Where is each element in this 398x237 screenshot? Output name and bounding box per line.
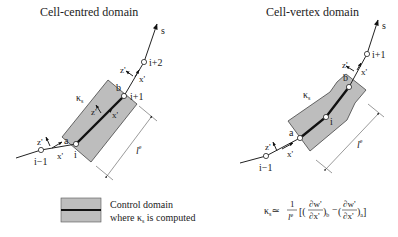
cell-centred-panel: Cell-centred domain s i−1 i i+1 i+2 a b … xyxy=(16,5,165,180)
dimension-extension-bottom xyxy=(96,166,113,180)
cell-vertex-title: Cell-vertex domain xyxy=(266,5,359,19)
label-i-minus-1: i−1 xyxy=(34,156,47,167)
node-i-minus-1 xyxy=(38,147,43,152)
z-prime-arrow-a xyxy=(273,142,277,151)
point-a-label: a xyxy=(289,127,294,138)
x-prime-label-b: x' xyxy=(139,74,146,84)
length-label: le xyxy=(357,138,363,150)
node-i xyxy=(73,141,78,146)
s-axis-label: s xyxy=(382,20,386,31)
s-axis-label: s xyxy=(161,25,165,36)
z-prime-label-a: z' xyxy=(265,142,271,152)
label-i-plus-1: i+1 xyxy=(130,91,143,102)
node-b xyxy=(346,84,351,89)
z-prime-label-b: z' xyxy=(120,65,126,75)
node-i-plus-1 xyxy=(364,51,369,56)
derivative-b-close: )b xyxy=(323,206,329,218)
x-prime-label-b: x' xyxy=(361,67,368,77)
z-prime-arrow-a xyxy=(46,137,50,146)
legend: Control domain where κs is computed xyxy=(61,198,195,224)
label-i-plus-1: i+1 xyxy=(372,49,385,60)
node-i-plus-1 xyxy=(121,93,126,98)
derivative-a-close: )a] xyxy=(357,206,366,218)
derivative-b-den: ∂x' xyxy=(309,211,320,221)
fraction-denominator: le xyxy=(288,212,294,222)
derivative-a-open: ( xyxy=(338,206,342,218)
dimension-extension-top xyxy=(139,106,157,121)
x-prime-label-a: x' xyxy=(287,149,294,159)
z-prime-label-a: z' xyxy=(37,137,43,147)
derivative-a-num: ∂w' xyxy=(343,199,356,209)
legend-line-2: where κs is computed xyxy=(110,212,195,224)
node-i-plus-2 xyxy=(141,59,146,64)
curvature-formula: κs≃ 1 le [( ∂w' ∂x' )b − ( ∂w' ∂x' )a] xyxy=(264,199,366,222)
formula-lhs: κs≃ xyxy=(264,205,280,217)
label-i: i xyxy=(74,149,77,160)
node-i xyxy=(323,114,328,119)
label-i-plus-2: i+2 xyxy=(149,57,162,68)
z-prime-label-mid: z' xyxy=(91,107,97,117)
dimension-extension-bottom xyxy=(316,160,332,173)
node-i-minus-1 xyxy=(263,153,268,158)
label-i: i xyxy=(330,116,333,127)
node-a xyxy=(297,135,302,140)
kappa-s-label: κs xyxy=(76,92,84,104)
point-a-label: a xyxy=(64,135,69,146)
fraction-numerator: 1 xyxy=(290,199,295,209)
z-prime-arrow-b xyxy=(126,71,133,76)
open-bracket: [( xyxy=(299,206,306,218)
legend-line-1: Control domain xyxy=(110,199,173,210)
diagram-canvas: Cell-centred domain s i−1 i i+1 i+2 a b … xyxy=(0,0,398,237)
point-b-label: b xyxy=(116,82,121,93)
length-label: le xyxy=(136,144,142,156)
kappa-s-label: κs xyxy=(303,89,311,101)
x-prime-label-a: x' xyxy=(57,151,64,161)
cell-centred-title: Cell-centred domain xyxy=(40,5,138,19)
z-prime-label-b: z' xyxy=(342,60,348,70)
derivative-b-num: ∂w' xyxy=(309,199,322,209)
dimension-extension-top xyxy=(368,104,384,117)
x-prime-label-mid: x' xyxy=(112,110,119,120)
point-b-label: b xyxy=(343,72,348,83)
label-i-minus-1: i−1 xyxy=(259,162,272,173)
derivative-a-den: ∂x' xyxy=(343,211,354,221)
cell-vertex-panel: Cell-vertex domain s i−1 i i+1 a b κs x'… xyxy=(240,5,386,173)
